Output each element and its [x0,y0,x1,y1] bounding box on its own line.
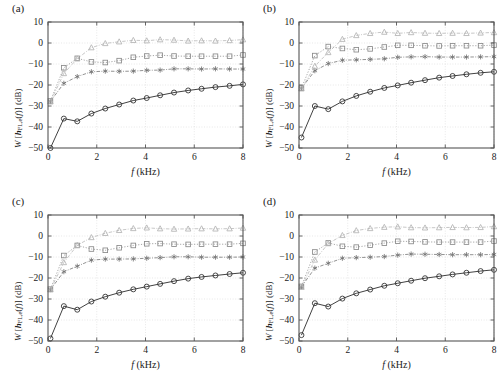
data-point [89,69,94,74]
x-tick-label: 6 [443,345,448,355]
data-point [89,45,94,50]
chart-svg-a: 02468−50−40−30−20−10010 [0,0,250,193]
y-tick-label: 0 [38,38,43,48]
series-circle-solid-black [48,82,246,151]
x-tick-label: 6 [443,152,448,162]
y-tick-label: 0 [289,231,294,241]
y-tick-label: −50 [279,336,294,346]
series-circle-solid-black [48,270,246,341]
y-axis-label: W [hFL,e(f)] (dB) [13,89,23,148]
panel-c: (c) 02468−50−40−30−20−10010 f (kHz)W [hF… [0,193,250,386]
x-tick-label: 2 [345,152,350,162]
x-tick-label: 8 [241,152,246,162]
chart-svg-d: 02468−50−40−30−20−10010 [251,193,501,386]
x-tick-label: 4 [394,345,399,355]
y-tick-label: −50 [279,143,294,153]
gridlines [48,215,243,341]
y-axis-label: W [hFL,e(f)] (dB) [264,89,274,148]
x-tick-label: 0 [46,345,51,355]
x-tick-label: 6 [192,345,197,355]
x-axis-label: f (kHz) [48,359,243,370]
x-tick-label: 4 [394,152,399,162]
panel-b: (b) 02468−50−40−30−20−10010 f (kHz)W [hF… [251,0,501,193]
panel-a: (a) 02468−50−40−30−20−10010 f (kHz)W [hF… [0,0,250,193]
y-tick-label: −50 [28,336,43,346]
x-axis-label: f (kHz) [299,166,494,177]
data-point [62,65,67,70]
y-tick-label: −20 [279,80,294,90]
data-point [450,224,455,229]
x-tick-label: 0 [46,152,51,162]
x-tick-label: 2 [94,345,99,355]
y-tick-label: −20 [279,273,294,283]
data-point [326,261,331,266]
y-tick-label: 10 [34,17,44,27]
figure-container: (a) 02468−50−40−30−20−10010 f (kHz)W [hF… [0,0,501,386]
data-point [172,66,177,71]
y-tick-label: −40 [28,122,43,132]
data-point [131,37,136,42]
panel-d: (d) 02468−50−40−30−20−10010 f (kHz)W [hF… [251,193,501,386]
y-axis-label: W [hFL,e(f)] (dB) [13,282,23,341]
data-point [199,226,204,231]
y-tick-label: −10 [279,59,294,69]
x-axis-label: f (kHz) [299,359,494,370]
x-tick-label: 4 [143,152,148,162]
y-tick-label: −10 [28,59,43,69]
data-point [313,53,318,58]
y-tick-label: −30 [279,101,294,111]
x-tick-label: 6 [192,152,197,162]
data-point [409,54,414,59]
y-tick-label: −40 [279,315,294,325]
series-triangle-dashdot-lightgray [299,29,497,91]
y-tick-label: 0 [289,38,294,48]
y-tick-label: 0 [38,231,43,241]
y-tick-label: −50 [28,143,43,153]
data-point [382,29,387,34]
x-tick-label: 0 [297,152,302,162]
y-axis-label: W [hFL,e(f)] (dB) [264,282,274,341]
x-tick-label: 8 [492,152,497,162]
y-tick-label: −40 [279,122,294,132]
series-circle-solid-black [299,69,497,140]
data-point [313,266,318,271]
x-tick-label: 0 [297,345,302,355]
chart-svg-c: 02468−50−40−30−20−10010 [0,193,250,386]
x-axis-label: f (kHz) [48,166,243,177]
data-point [437,252,442,257]
x-tick-label: 8 [241,345,246,355]
chart-svg-b: 02468−50−40−30−20−10010 [251,0,501,193]
y-tick-label: −30 [279,294,294,304]
y-tick-label: 10 [285,210,295,220]
y-tick-label: −20 [28,80,43,90]
gridlines [299,215,494,341]
x-tick-label: 8 [492,345,497,355]
y-tick-label: −30 [28,294,43,304]
x-tick-label: 4 [143,345,148,355]
data-point [299,135,304,140]
data-point [75,74,80,79]
data-point [75,264,80,269]
data-point [299,333,304,338]
data-point [408,30,413,35]
data-point [186,66,191,71]
y-tick-label: −10 [279,252,294,262]
gridlines [299,22,494,148]
data-point [48,336,53,341]
x-tick-label: 2 [94,152,99,162]
y-tick-label: −20 [28,273,43,283]
x-tick-label: 2 [345,345,350,355]
y-tick-label: 10 [285,17,295,27]
y-tick-label: −10 [28,252,43,262]
y-tick-label: 10 [34,210,44,220]
y-tick-label: −30 [28,101,43,111]
y-tick-label: −40 [28,315,43,325]
data-point [423,252,428,257]
